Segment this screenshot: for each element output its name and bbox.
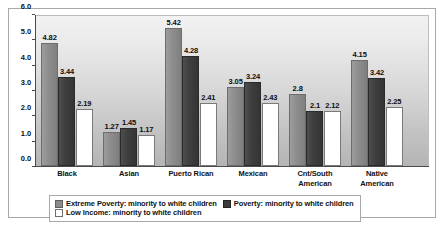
bar-slot: 3.44 [58, 15, 75, 166]
bar[interactable]: 2.43 [262, 103, 279, 166]
bar-value-label: 1.45 [122, 118, 136, 127]
x-axis-category-label: NativeAmerican [346, 169, 408, 188]
y-axis-tick-mark [32, 141, 35, 142]
bar-group-inner: 4.823.442.19 [41, 15, 93, 166]
bar[interactable]: 3.42 [368, 78, 385, 166]
bar-group-inner: 2.82.12.12 [289, 15, 341, 166]
bar-value-label: 2.25 [387, 97, 401, 106]
y-axis-tick-mark [32, 65, 35, 66]
bar-value-label: 2.43 [263, 93, 277, 102]
bar-group: 4.153.422.25 [346, 15, 408, 166]
bar-groups: 4.823.442.191.271.451.175.424.282.413.05… [36, 15, 429, 166]
bar-slot: 1.17 [138, 15, 155, 166]
bar[interactable]: 2.12 [324, 111, 341, 166]
bar-value-label: 4.28 [184, 46, 198, 55]
bar-group-inner: 1.271.451.17 [103, 15, 155, 166]
x-axis-line [35, 166, 429, 167]
bar-value-label: 2.12 [325, 101, 339, 110]
legend-label: Extreme Poverty: minority to white child… [66, 199, 217, 208]
bar-group-inner: 3.053.242.43 [227, 15, 279, 166]
bar-slot: 3.42 [368, 15, 385, 166]
bar-slot: 2.43 [262, 15, 279, 166]
bar-slot: 4.15 [351, 15, 368, 166]
bar-slot: 4.28 [182, 15, 199, 166]
bar-slot: 5.42 [165, 15, 182, 166]
bar-value-label: 2.41 [201, 93, 215, 102]
y-axis-tick-label: 0.0 [21, 154, 31, 163]
bar-value-label: 3.05 [229, 77, 243, 86]
y-axis-tick-mark [32, 39, 35, 40]
bar[interactable]: 2.19 [76, 109, 93, 166]
bar[interactable]: 2.1 [306, 111, 323, 166]
category-label-line: Asian [98, 169, 160, 179]
bar[interactable]: 5.42 [165, 28, 182, 166]
bar-slot: 2.12 [324, 15, 341, 166]
category-label-line: Black [36, 169, 98, 179]
bar-slot: 2.19 [76, 15, 93, 166]
y-axis-line [35, 15, 36, 167]
bar-value-label: 1.27 [105, 122, 119, 131]
bar-group: 5.424.282.41 [160, 15, 222, 166]
bar-value-label: 3.24 [246, 72, 260, 81]
bar-slot: 2.25 [386, 15, 403, 166]
x-axis-category-label: Black [36, 169, 98, 188]
bar-value-label: 3.42 [370, 68, 384, 77]
bar-value-label: 2.1 [310, 101, 320, 110]
x-axis-category-label: Mexican [222, 169, 284, 188]
bar[interactable]: 3.05 [227, 87, 244, 166]
legend-item-low-income[interactable]: Low Income: minority to white children [55, 208, 201, 217]
bar[interactable]: 1.27 [103, 132, 120, 166]
legend-row: Low Income: minority to white children [55, 208, 355, 217]
legend-item-extreme-poverty[interactable]: Extreme Poverty: minority to white child… [55, 199, 217, 208]
chart-legend: Extreme Poverty: minority to white child… [49, 195, 361, 222]
category-label-line: Native [346, 169, 408, 179]
y-axis-tick-label: 6.0 [21, 2, 31, 11]
chart-frame: 0.01.02.03.04.05.06.0 4.823.442.191.271.… [8, 8, 436, 218]
bar[interactable]: 2.41 [200, 103, 217, 166]
legend-swatch-icon [55, 200, 63, 208]
bar[interactable]: 3.44 [58, 77, 75, 166]
bar-group-inner: 4.153.422.25 [351, 15, 403, 166]
bar-value-label: 5.42 [167, 18, 181, 27]
bar[interactable]: 1.45 [120, 128, 137, 166]
x-axis-category-labels: BlackAsianPuerto RicanMexicanCnt/SouthAm… [36, 169, 429, 188]
y-axis-tick-label: 1.0 [21, 128, 31, 137]
bar[interactable]: 1.17 [138, 135, 155, 166]
bar-value-label: 3.44 [60, 67, 74, 76]
category-label-line: Puerto Rican [160, 169, 222, 179]
legend-item-poverty[interactable]: Poverty: minority to white children [223, 199, 354, 208]
category-label-line: Cnt/South [284, 169, 346, 179]
category-label-line: American [346, 179, 408, 189]
legend-label: Poverty: minority to white children [234, 199, 354, 208]
y-axis-tick-mark [32, 115, 35, 116]
y-axis-tick-label: 3.0 [21, 78, 31, 87]
x-axis-category-label: Asian [98, 169, 160, 188]
bar[interactable]: 4.28 [182, 56, 199, 166]
bar[interactable]: 2.8 [289, 94, 306, 166]
y-axis-tick-mark [32, 166, 35, 167]
bar-group: 3.053.242.43 [222, 15, 284, 166]
y-axis-tick-label: 2.0 [21, 103, 31, 112]
x-axis-category-label: Puerto Rican [160, 169, 222, 188]
bar-slot: 3.05 [227, 15, 244, 166]
bar-value-label: 1.17 [139, 125, 153, 134]
bar[interactable]: 3.24 [244, 82, 261, 166]
bar-group: 4.823.442.19 [36, 15, 98, 166]
bar-value-label: 4.15 [353, 50, 367, 59]
bar-group: 2.82.12.12 [284, 15, 346, 166]
bar[interactable]: 4.15 [351, 60, 368, 166]
bar-value-label: 4.82 [43, 33, 57, 42]
bar[interactable]: 2.25 [386, 107, 403, 166]
legend-row: Extreme Poverty: minority to white child… [55, 199, 355, 208]
bar-group-inner: 5.424.282.41 [165, 15, 217, 166]
plot-region: 0.01.02.03.04.05.06.0 4.823.442.191.271.… [35, 15, 429, 167]
bar-slot: 1.45 [120, 15, 137, 166]
bar-value-label: 2.8 [293, 84, 303, 93]
bar-slot: 1.27 [103, 15, 120, 166]
bar-slot: 4.82 [41, 15, 58, 166]
bar-value-label: 2.19 [77, 99, 91, 108]
bar-slot: 2.8 [289, 15, 306, 166]
bar[interactable]: 4.82 [41, 43, 58, 166]
x-axis-category-label: Cnt/SouthAmerican [284, 169, 346, 188]
legend-label: Low Income: minority to white children [66, 208, 201, 217]
